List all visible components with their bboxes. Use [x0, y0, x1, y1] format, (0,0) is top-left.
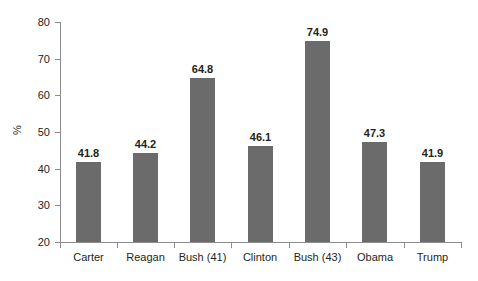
bar-value-bush-41: 64.8	[177, 63, 228, 75]
bar-clinton[interactable]	[248, 146, 273, 242]
x-tick-3	[231, 243, 232, 248]
bar-reagan[interactable]	[133, 153, 158, 242]
x-label-obama: Obama	[346, 251, 404, 264]
x-tick-5	[346, 243, 347, 248]
y-tick-label-70: 70	[20, 54, 50, 65]
x-label-clinton: Clinton	[231, 251, 289, 264]
x-label-trump: Trump	[404, 251, 461, 264]
bar-value-carter: 41.8	[63, 147, 114, 159]
y-tick-label-30: 30	[20, 200, 50, 211]
bar-obama[interactable]	[362, 142, 387, 242]
y-tick-40	[55, 169, 60, 170]
y-tick-label-80: 80	[20, 17, 50, 28]
x-tick-6	[404, 243, 405, 248]
x-label-reagan: Reagan	[117, 251, 174, 264]
y-tick-60	[55, 95, 60, 96]
x-tick-1	[117, 243, 118, 248]
y-tick-80	[55, 22, 60, 23]
y-axis-line	[60, 22, 61, 243]
y-tick-label-50: 50	[20, 127, 50, 138]
bar-value-obama: 47.3	[349, 127, 400, 139]
y-tick-70	[55, 59, 60, 60]
bar-value-reagan: 44.2	[120, 138, 171, 150]
bar-value-bush-43: 74.9	[292, 26, 343, 38]
x-label-bush-43: Bush (43)	[289, 251, 346, 264]
bar-carter[interactable]	[76, 162, 101, 242]
bar-trump[interactable]	[420, 162, 445, 242]
y-tick-50	[55, 132, 60, 133]
x-tick-0	[60, 243, 61, 248]
bar-bush-43[interactable]	[305, 41, 330, 242]
x-tick-2	[174, 243, 175, 248]
bar-value-trump: 41.9	[407, 147, 458, 159]
x-tick-4	[289, 243, 290, 248]
y-tick-30	[55, 205, 60, 206]
y-tick-label-60: 60	[20, 90, 50, 101]
bar-chart: % 20 30 40 50 60 70 80 41.8 44	[0, 0, 478, 281]
bar-bush-41[interactable]	[190, 78, 215, 242]
plot-area: 20 30 40 50 60 70 80 41.8 44.2 64.8	[0, 0, 478, 281]
x-axis-line	[60, 242, 462, 243]
bar-value-clinton: 46.1	[235, 131, 286, 143]
y-tick-label-40: 40	[20, 164, 50, 175]
y-tick-label-20: 20	[20, 237, 50, 248]
x-label-bush-41: Bush (41)	[174, 251, 231, 264]
x-label-carter: Carter	[60, 251, 117, 264]
x-tick-7	[461, 243, 462, 248]
